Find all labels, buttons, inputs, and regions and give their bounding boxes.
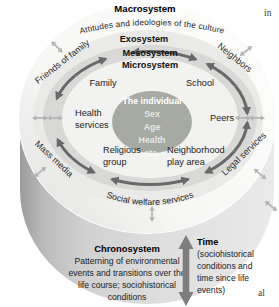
chronosystem-text-line1: Patterning of environmental: [74, 256, 179, 266]
time-text-line4: events): [197, 285, 225, 295]
label-macrosystem: Macrosystem: [114, 3, 175, 14]
label-school: School: [186, 78, 214, 88]
label-individual-sex: Sex: [144, 109, 160, 119]
label-health-services-line2: services: [75, 120, 109, 130]
label-individual-health: Health: [139, 135, 166, 145]
chronosystem-text-line3: life course; sociohistorical: [78, 280, 176, 290]
label-religious-group-line2: group: [103, 157, 127, 167]
bronfenbrenner-ecological-systems-figure: Macrosystem Attitudes and ideologies of …: [0, 0, 279, 307]
label-exosystem: Exosystem: [120, 34, 169, 44]
page-text-fragment-bottom-right: al: [258, 288, 265, 298]
label-individual-etc: etc.: [144, 148, 159, 158]
label-religious-group: Religious: [103, 145, 141, 155]
label-individual-age: Age: [144, 122, 161, 132]
time-text-line1: (sociohistorical: [197, 249, 254, 259]
label-chronosystem: Chronosystem: [94, 243, 160, 254]
label-microsystem: Microsystem: [122, 60, 178, 70]
label-time: Time: [197, 237, 218, 247]
label-peers: Peers: [210, 113, 234, 123]
label-family: Family: [89, 78, 116, 88]
time-text-line3: time since life: [197, 273, 249, 283]
chronosystem-text-line2: events and transitions over the: [68, 268, 185, 278]
chronosystem-text-line4: conditions: [108, 292, 147, 302]
label-health-services: Health: [75, 108, 102, 118]
label-the-individual: The individual: [122, 96, 181, 106]
time-text-line2: conditions and: [197, 261, 253, 271]
label-mesosystem: Mesosystem: [122, 48, 177, 58]
label-neighborhood-play-area-line2: play area: [167, 157, 206, 167]
label-neighborhood-play-area: Neighborhood: [167, 145, 225, 155]
page-text-fragment-top-right: in: [264, 8, 272, 18]
